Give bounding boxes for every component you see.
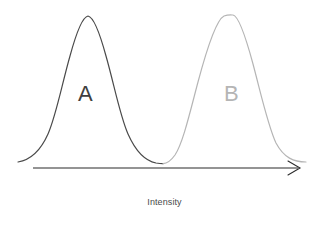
plot-canvas: [0, 0, 329, 225]
peak-label-a: A: [78, 83, 93, 105]
intensity-two-peak-diagram: A B Intensity: [0, 0, 329, 225]
peak-label-b: B: [224, 83, 239, 105]
axis-label-intensity: Intensity: [0, 197, 329, 207]
